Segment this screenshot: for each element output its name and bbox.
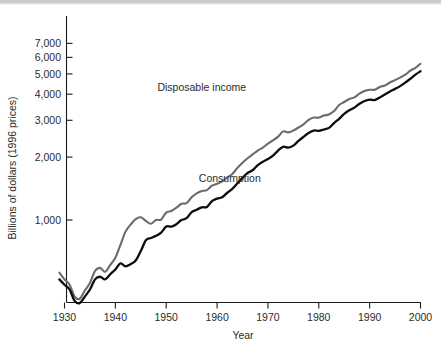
x-tick-label: 1930 (53, 311, 77, 323)
y-tick-labels: 1,0002,0003,0004,0005,0006,0007,000 (35, 37, 61, 226)
y-tick-label: 5,000 (35, 68, 61, 80)
y-tick-label: 2,000 (35, 151, 61, 163)
x-axis-title: Year (232, 329, 254, 341)
y-axis-title: Billions of dollars (1996 prices) (6, 97, 18, 240)
chart-page: 1,0002,0003,0004,0005,0006,0007,000 1930… (0, 0, 441, 350)
series-annotation-consumption: Consumption (199, 172, 261, 184)
x-tick-label: 1970 (256, 311, 280, 323)
x-tick-label: 1990 (358, 311, 382, 323)
x-tick-label: 1940 (104, 311, 128, 323)
series-line-consumption (59, 71, 420, 303)
series-annotation-disposable-income: Disposable income (157, 81, 246, 93)
y-tick-marks (67, 43, 73, 220)
y-tick-label: 6,000 (35, 51, 61, 63)
line-chart: 1,0002,0003,0004,0005,0006,0007,000 1930… (0, 0, 441, 350)
x-tick-label: 1950 (155, 311, 179, 323)
x-tick-label: 2000 (409, 311, 433, 323)
y-tick-label: 3,000 (35, 114, 61, 126)
x-tick-labels: 19301940195019601970198019902000 (53, 311, 433, 323)
y-tick-label: 7,000 (35, 37, 61, 49)
x-tick-label: 1960 (205, 311, 229, 323)
y-tick-label: 4,000 (35, 88, 61, 100)
x-tick-label: 1980 (307, 311, 331, 323)
y-tick-label: 1,000 (35, 214, 61, 226)
x-tick-marks (65, 303, 421, 309)
